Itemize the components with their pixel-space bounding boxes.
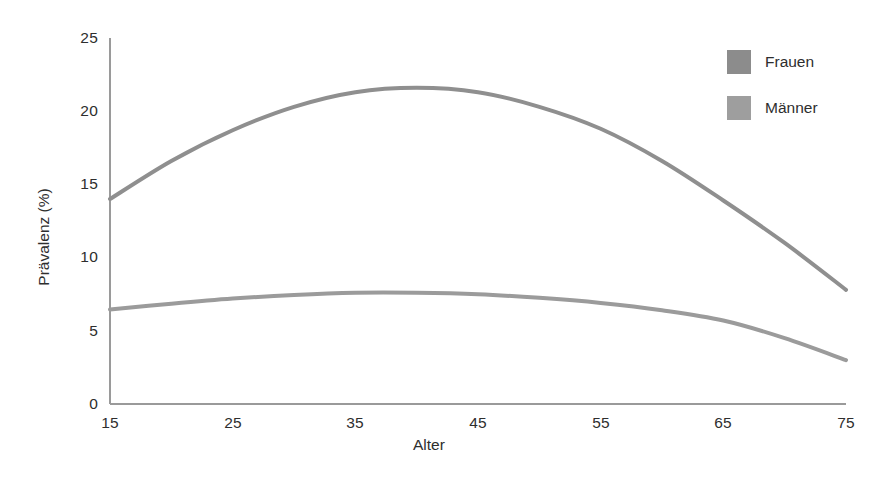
y-tick-label-5: 5 (58, 322, 98, 340)
legend-item-maenner: Männer (727, 96, 867, 120)
legend-label-frauen: Frauen (765, 53, 814, 71)
y-axis-title: Prävalenz (%) (35, 167, 53, 307)
y-tick-label-10: 10 (58, 248, 98, 266)
x-tick-label-35: 35 (335, 414, 375, 432)
legend-swatch-maenner (727, 96, 751, 120)
y-tick-label-25: 25 (58, 29, 98, 47)
y-tick-label-15: 15 (58, 175, 98, 193)
y-tick-label-20: 20 (58, 102, 98, 120)
x-tick-label-25: 25 (213, 414, 253, 432)
x-axis-title: Alter (413, 436, 445, 454)
x-tick-label-15: 15 (90, 414, 130, 432)
y-tick-label-0: 0 (58, 395, 98, 413)
legend-item-frauen: Frauen (727, 50, 867, 74)
x-tick-label-55: 55 (581, 414, 621, 432)
x-tick-label-75: 75 (826, 414, 866, 432)
legend-label-maenner: Männer (765, 99, 818, 117)
chart-legend: Frauen Männer (727, 50, 867, 142)
x-tick-label-65: 65 (703, 414, 743, 432)
series-line-männer (110, 293, 846, 361)
legend-swatch-frauen (727, 50, 751, 74)
chart-container: 25 20 15 10 5 0 15 25 35 45 55 65 75 Prä… (0, 0, 882, 484)
x-tick-label-45: 45 (458, 414, 498, 432)
